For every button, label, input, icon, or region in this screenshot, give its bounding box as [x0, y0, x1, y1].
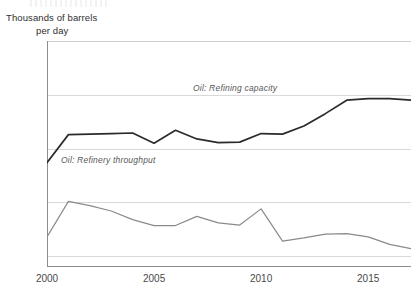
series-label-capacity: Oil: Refining capacity — [193, 83, 277, 93]
x-tick-label: 2005 — [143, 273, 165, 284]
chart-container: Thousands of barrels per day 2,0002,5003… — [0, 0, 417, 301]
y-axis-title-line1: Thousands of barrels — [6, 12, 97, 25]
series-lines — [47, 41, 411, 267]
x-tick-label: 2015 — [357, 273, 379, 284]
x-tick-label: 2000 — [36, 273, 58, 284]
y-axis-title-line2: per day — [36, 25, 68, 38]
series-line — [47, 99, 411, 163]
top-edge-artifact — [30, 0, 110, 7]
x-tick-label: 2010 — [250, 273, 272, 284]
series-line — [47, 201, 411, 248]
plot-area: 2,0002,5003,0003,500 2000200520102015 — [47, 41, 411, 267]
series-label-throughput: Oil: Refinery throughput — [61, 155, 156, 165]
